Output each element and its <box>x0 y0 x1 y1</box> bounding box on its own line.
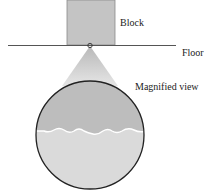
friction-diagram <box>0 0 206 191</box>
magnified-view-label: Magnified view <box>135 82 199 92</box>
block-label: Block <box>120 18 144 28</box>
magnification-cone <box>62 46 118 86</box>
floor-label: Floor <box>182 48 204 58</box>
magnified-view <box>30 78 155 191</box>
block <box>67 0 115 45</box>
